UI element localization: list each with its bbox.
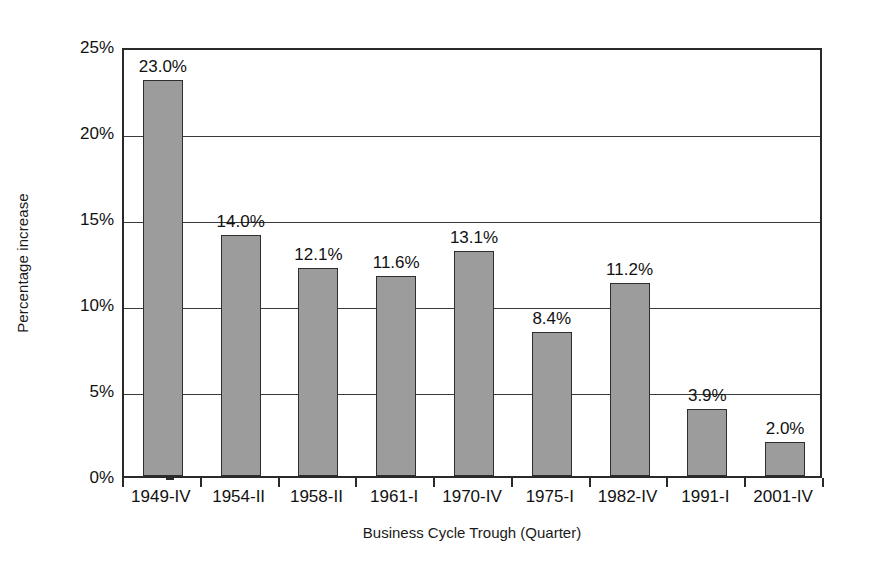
bar-value-label: 8.4% (532, 310, 571, 328)
bar[interactable] (532, 332, 572, 476)
x-category-label: 1958-II (278, 487, 356, 507)
x-tick-mark (278, 478, 280, 487)
bar[interactable] (454, 251, 494, 476)
bar-value-label: 14.0% (217, 213, 265, 231)
bar-group: 2.0% (746, 50, 824, 476)
bar-value-label: 11.2% (606, 261, 653, 279)
bar-value-label: 13.1% (450, 229, 498, 247)
bar-group: 12.1% (280, 50, 358, 476)
x-tick-mark (433, 478, 435, 487)
bar-group: 14.0% (202, 50, 280, 476)
x-tick-mark (355, 478, 357, 487)
bar-group: 3.9% (668, 50, 746, 476)
x-tick-mark (666, 478, 668, 487)
x-category-label: 2001-IV (744, 487, 822, 507)
x-category-label: 1982-IV (589, 487, 667, 507)
x-category-label: 1949-IV (122, 487, 200, 507)
y-tick-label: 10% (52, 297, 114, 314)
y-tick-label: 25% (52, 39, 114, 56)
x-category-label: 1954-II (200, 487, 278, 507)
bar[interactable] (765, 442, 805, 476)
bars-layer: 23.0%14.0%12.1%11.6%13.1%8.4%11.2%3.9%2.… (124, 50, 820, 476)
bar-group: 11.2% (591, 50, 669, 476)
bar-chart: Percentage increase 0%5%10%15%20%25% 23.… (0, 0, 869, 561)
bar-group: 11.6% (357, 50, 435, 476)
bar[interactable] (221, 235, 261, 476)
bar-value-label: 2.0% (766, 420, 805, 438)
y-tick-label: 0% (52, 469, 114, 486)
x-tick-mark (589, 478, 591, 487)
x-category-label: 1991-I (666, 487, 744, 507)
y-tick-mark (166, 478, 174, 480)
x-category-label: 1961-I (355, 487, 433, 507)
x-tick-mark (200, 478, 202, 487)
bar[interactable] (687, 409, 727, 476)
bar[interactable] (610, 283, 650, 476)
x-axis-title: Business Cycle Trough (Quarter) (122, 524, 822, 541)
x-tick-mark (744, 478, 746, 487)
bar-group: 8.4% (513, 50, 591, 476)
bar-value-label: 23.0% (139, 58, 187, 76)
bar[interactable] (376, 276, 416, 476)
bar-group: 23.0% (124, 50, 202, 476)
bar-value-label: 11.6% (373, 254, 420, 272)
bar-value-label: 12.1% (294, 246, 342, 264)
y-axis-ticks: 0%5%10%15%20%25% (52, 0, 114, 561)
x-category-label: 1970-IV (433, 487, 511, 507)
x-tick-mark (511, 478, 513, 487)
bar-value-label: 3.9% (688, 387, 727, 405)
y-tick-label: 5% (52, 383, 114, 400)
x-tick-mark (822, 478, 824, 487)
bar-group: 13.1% (435, 50, 513, 476)
y-axis-title: Percentage increase (14, 48, 44, 478)
bar[interactable] (298, 268, 338, 476)
plot-area: 23.0%14.0%12.1%11.6%13.1%8.4%11.2%3.9%2.… (122, 48, 822, 478)
x-category-label: 1975-I (511, 487, 589, 507)
bar[interactable] (143, 80, 183, 476)
y-tick-label: 15% (52, 211, 114, 228)
y-tick-label: 20% (52, 125, 114, 142)
x-tick-mark (122, 478, 124, 487)
